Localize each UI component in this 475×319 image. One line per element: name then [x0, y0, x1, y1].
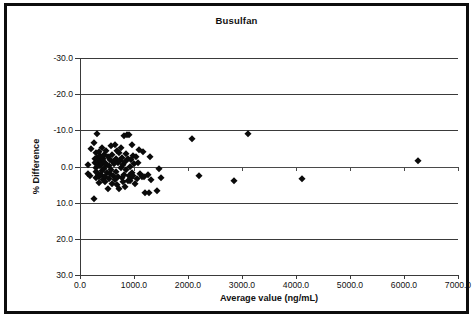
scatter-point: [157, 174, 165, 182]
scatter-point: [195, 172, 203, 180]
gridline-y--30: [80, 275, 458, 276]
figure-frame: Busulfan 30.020.010.00.0-10.0-20.0-30.0 …: [4, 3, 469, 314]
y-tick-label: 30.0: [56, 270, 73, 280]
x-tick-label: 4000.0: [283, 280, 309, 290]
x-tick-0: [80, 275, 81, 279]
scatter-point: [147, 176, 155, 184]
y-tick-label: 0.0: [61, 162, 73, 172]
chart-title: Busulfan: [7, 15, 466, 26]
scatter-point: [230, 178, 238, 186]
x-axis-title: Average value (ng/mL): [80, 293, 458, 303]
gridline-y--20: [80, 239, 458, 240]
y-tick-10: [75, 130, 80, 131]
x-tick-5000: [350, 275, 351, 279]
x-tick-zeroline-6000: [404, 167, 405, 171]
gridline-y-10: [80, 130, 458, 131]
x-tick-4000: [296, 275, 297, 279]
x-tick-zeroline-5000: [350, 167, 351, 171]
x-tick-label: 3000.0: [229, 280, 255, 290]
x-tick-label: 5000.0: [337, 280, 363, 290]
x-tick-6000: [404, 275, 405, 279]
scatter-point: [153, 188, 161, 196]
y-axis-title: % Difference: [31, 58, 45, 275]
x-tick-zeroline-3000: [242, 167, 243, 171]
y-tick-0: [75, 167, 80, 168]
x-tick-1000: [134, 275, 135, 279]
y-tick-20: [75, 94, 80, 95]
scatter-point: [414, 157, 422, 165]
zero-line: [80, 167, 458, 168]
x-tick-label: 7000.0: [445, 280, 471, 290]
x-tick-2000: [188, 275, 189, 279]
plot-area: 30.020.010.00.0-10.0-20.0-30.0 0.01000.0…: [80, 58, 458, 275]
scatter-point: [135, 159, 143, 167]
x-tick-label: 2000.0: [175, 280, 201, 290]
x-tick-label: 1000.0: [121, 280, 147, 290]
x-tick-zeroline-2000: [188, 167, 189, 171]
y-tick--20: [75, 239, 80, 240]
scatter-point: [128, 141, 136, 149]
x-tick-3000: [242, 275, 243, 279]
scatter-point: [299, 175, 307, 183]
y-tick-30: [75, 58, 80, 59]
x-tick-label: 6000.0: [391, 280, 417, 290]
scatter-point: [189, 136, 197, 144]
y-tick-label: -20.0: [53, 89, 73, 99]
y-tick-label: 20.0: [56, 234, 73, 244]
gridline-y-20: [80, 94, 458, 95]
scatter-point: [145, 189, 153, 197]
gridline-y--10: [80, 203, 458, 204]
y-tick-label: 10.0: [56, 198, 73, 208]
x-tick-label: 0.0: [74, 280, 86, 290]
x-tick-7000: [458, 275, 459, 279]
y-tick-label: -30.0: [53, 53, 73, 63]
y-tick--10: [75, 203, 80, 204]
gridline-y-30: [80, 58, 458, 59]
scatter-point: [90, 195, 98, 203]
y-tick-label: -10.0: [53, 125, 73, 135]
x-tick-zeroline-7000: [458, 167, 459, 171]
scatter-point: [146, 153, 154, 161]
scatter-point: [139, 149, 147, 157]
x-tick-zeroline-4000: [296, 167, 297, 171]
